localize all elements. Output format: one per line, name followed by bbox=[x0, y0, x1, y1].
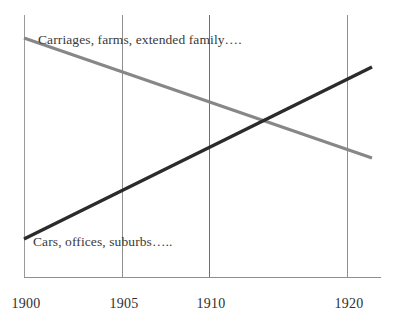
x-tick-label-1905: 1905 bbox=[110, 297, 139, 311]
line-chart: Carriages, farms, extended family…. Cars… bbox=[0, 0, 399, 326]
x-tick-label-1920: 1920 bbox=[335, 297, 364, 311]
chart-canvas bbox=[0, 0, 399, 326]
x-tick-label-1900: 1900 bbox=[12, 297, 41, 311]
series-label-cars: Cars, offices, suburbs….. bbox=[33, 235, 172, 249]
series-label-carriages: Carriages, farms, extended family…. bbox=[38, 33, 242, 47]
x-tick-label-1910: 1910 bbox=[197, 297, 226, 311]
